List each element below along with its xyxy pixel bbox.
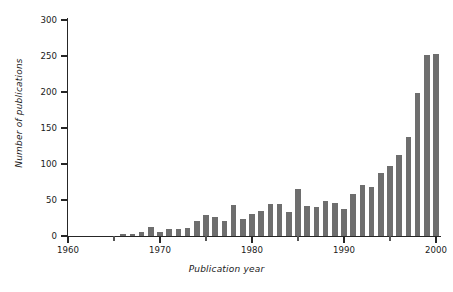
- bar: [433, 54, 439, 236]
- x-tick-label: 2000: [425, 246, 447, 255]
- publications-bar-chart: 050100150200250300 19601970198019902000 …: [0, 0, 453, 292]
- y-tick-label: 0: [52, 232, 57, 241]
- y-axis-title: Number of publications: [14, 48, 24, 178]
- bar: [415, 93, 421, 236]
- bar: [268, 204, 274, 236]
- bar: [194, 221, 200, 236]
- x-minor-tick-1985: [297, 236, 298, 241]
- x-minor-tick-1975: [205, 236, 206, 241]
- bar: [378, 173, 384, 236]
- x-tick-1990: [343, 236, 344, 243]
- bar: [148, 227, 154, 236]
- x-minor-tick-1965: [113, 236, 114, 241]
- y-tick-50: [61, 199, 68, 200]
- bar: [130, 234, 136, 236]
- x-minor-tick-1995: [389, 236, 390, 241]
- y-tick-label: 200: [41, 88, 57, 97]
- y-tick-label: 150: [41, 124, 57, 133]
- bar: [295, 189, 301, 236]
- bar: [166, 229, 172, 236]
- bar: [424, 55, 430, 236]
- x-tick-label: 1980: [241, 246, 263, 255]
- bar: [185, 228, 191, 236]
- bar: [120, 234, 126, 236]
- y-tick-label: 100: [41, 160, 57, 169]
- y-tick-250: [61, 55, 68, 56]
- plot-area: [68, 20, 438, 236]
- x-tick-label: 1960: [57, 246, 79, 255]
- bar: [341, 209, 347, 236]
- y-tick-label: 250: [41, 52, 57, 61]
- bar: [212, 217, 218, 236]
- bar: [332, 203, 338, 236]
- bar: [314, 207, 320, 236]
- bar: [203, 215, 209, 236]
- bar: [157, 232, 163, 236]
- bar: [350, 194, 356, 236]
- bar: [258, 211, 264, 236]
- bar: [387, 166, 393, 236]
- bar: [406, 137, 412, 236]
- bar: [222, 221, 228, 236]
- bar: [360, 185, 366, 236]
- y-tick-100: [61, 163, 68, 164]
- bar: [396, 155, 402, 236]
- y-tick-label: 50: [46, 196, 57, 205]
- x-tick-2000: [435, 236, 436, 243]
- y-tick-150: [61, 127, 68, 128]
- x-tick-1980: [251, 236, 252, 243]
- x-axis-title: Publication year: [0, 264, 453, 274]
- bar: [323, 201, 329, 236]
- y-tick-200: [61, 91, 68, 92]
- bar: [240, 219, 246, 236]
- bar: [231, 205, 237, 236]
- x-tick-label: 1970: [149, 246, 171, 255]
- x-tick-1970: [159, 236, 160, 243]
- y-tick-300: [61, 19, 68, 20]
- bar: [176, 229, 182, 236]
- x-tick-1960: [67, 236, 68, 243]
- bar: [277, 204, 283, 236]
- bar: [304, 206, 310, 236]
- x-tick-label: 1990: [333, 246, 355, 255]
- y-tick-label: 300: [41, 16, 57, 25]
- bar: [139, 232, 145, 236]
- bar: [286, 212, 292, 236]
- bar: [249, 214, 255, 236]
- bar: [369, 187, 375, 236]
